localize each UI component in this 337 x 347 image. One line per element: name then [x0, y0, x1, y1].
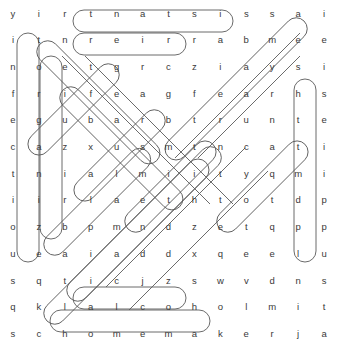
grid-cell[interactable]: i: [181, 160, 207, 187]
grid-cell[interactable]: e: [130, 187, 156, 214]
grid-cell[interactable]: e: [207, 214, 233, 241]
grid-cell[interactable]: s: [0, 320, 26, 347]
grid-cell[interactable]: k: [207, 320, 233, 347]
grid-cell[interactable]: z: [26, 214, 52, 241]
grid-cell[interactable]: t: [52, 267, 78, 294]
grid-cell[interactable]: e: [130, 320, 156, 347]
grid-cell[interactable]: a: [259, 133, 285, 160]
grid-cell[interactable]: q: [259, 160, 285, 187]
grid-cell[interactable]: i: [0, 187, 26, 214]
grid-cell[interactable]: c: [104, 267, 130, 294]
grid-cell[interactable]: f: [181, 80, 207, 107]
grid-cell[interactable]: c: [156, 53, 182, 80]
grid-cell[interactable]: j: [285, 320, 311, 347]
grid-cell[interactable]: t: [207, 187, 233, 214]
grid-cell[interactable]: s: [259, 0, 285, 27]
grid-cell[interactable]: b: [156, 107, 182, 134]
grid-cell[interactable]: t: [207, 160, 233, 187]
grid-cell[interactable]: j: [130, 267, 156, 294]
grid-cell[interactable]: c: [130, 294, 156, 321]
grid-cell[interactable]: k: [26, 294, 52, 321]
grid-cell[interactable]: x: [181, 240, 207, 267]
grid-cell[interactable]: u: [104, 133, 130, 160]
grid-cell[interactable]: r: [130, 107, 156, 134]
grid-cell[interactable]: t: [0, 160, 26, 187]
grid-cell[interactable]: i: [52, 80, 78, 107]
grid-cell[interactable]: a: [52, 240, 78, 267]
grid-cell[interactable]: i: [311, 133, 337, 160]
grid-cell[interactable]: e: [259, 240, 285, 267]
grid-cell[interactable]: i: [0, 27, 26, 54]
grid-cell[interactable]: r: [52, 0, 78, 27]
grid-cell[interactable]: s: [285, 53, 311, 80]
grid-cell[interactable]: t: [181, 133, 207, 160]
grid-cell[interactable]: l: [78, 187, 104, 214]
grid-cell[interactable]: t: [311, 294, 337, 321]
grid-cell[interactable]: n: [259, 107, 285, 134]
grid-cell[interactable]: q: [0, 294, 26, 321]
grid-cell[interactable]: i: [52, 160, 78, 187]
grid-cell[interactable]: a: [78, 294, 104, 321]
grid-cell[interactable]: r: [52, 187, 78, 214]
grid-cell[interactable]: e: [311, 27, 337, 54]
grid-cell[interactable]: b: [52, 214, 78, 241]
grid-cell[interactable]: o: [156, 294, 182, 321]
grid-cell[interactable]: i: [311, 53, 337, 80]
grid-cell[interactable]: d: [156, 214, 182, 241]
grid-cell[interactable]: y: [233, 160, 259, 187]
grid-cell[interactable]: l: [104, 294, 130, 321]
grid-cell[interactable]: s: [130, 133, 156, 160]
grid-cell[interactable]: m: [259, 294, 285, 321]
grid-cell[interactable]: u: [52, 107, 78, 134]
grid-cell[interactable]: r: [207, 107, 233, 134]
grid-cell[interactable]: u: [0, 240, 26, 267]
grid-cell[interactable]: t: [259, 187, 285, 214]
grid-cell[interactable]: a: [285, 0, 311, 27]
grid-cell[interactable]: y: [259, 53, 285, 80]
grid-cell[interactable]: r: [26, 80, 52, 107]
grid-cell[interactable]: e: [104, 80, 130, 107]
grid-cell[interactable]: i: [78, 240, 104, 267]
grid-cell[interactable]: r: [78, 27, 104, 54]
grid-cell[interactable]: y: [0, 0, 26, 27]
grid-cell[interactable]: z: [181, 214, 207, 241]
grid-cell[interactable]: t: [285, 133, 311, 160]
grid-cell[interactable]: n: [285, 267, 311, 294]
grid-cell[interactable]: r: [259, 80, 285, 107]
grid-cell[interactable]: n: [130, 214, 156, 241]
grid-cell[interactable]: q: [259, 214, 285, 241]
grid-cell[interactable]: n: [207, 133, 233, 160]
grid-cell[interactable]: t: [181, 107, 207, 134]
grid-cell[interactable]: a: [233, 53, 259, 80]
grid-cell[interactable]: t: [26, 27, 52, 54]
grid-cell[interactable]: c: [233, 133, 259, 160]
grid-cell[interactable]: o: [207, 294, 233, 321]
grid-cell[interactable]: i: [285, 294, 311, 321]
grid-cell[interactable]: i: [130, 27, 156, 54]
grid-cell[interactable]: a: [78, 160, 104, 187]
grid-cell[interactable]: m: [104, 320, 130, 347]
grid-cell[interactable]: x: [78, 133, 104, 160]
grid-cell[interactable]: r: [130, 53, 156, 80]
grid-cell[interactable]: z: [52, 133, 78, 160]
grid-cell[interactable]: i: [156, 160, 182, 187]
grid-cell[interactable]: h: [181, 294, 207, 321]
grid-cell[interactable]: o: [26, 53, 52, 80]
grid-cell[interactable]: d: [130, 240, 156, 267]
grid-cell[interactable]: e: [285, 27, 311, 54]
grid-cell[interactable]: m: [156, 133, 182, 160]
grid-cell[interactable]: n: [52, 27, 78, 54]
grid-cell[interactable]: u: [311, 240, 337, 267]
grid-cell[interactable]: t: [156, 187, 182, 214]
grid-cell[interactable]: z: [156, 267, 182, 294]
grid-cell[interactable]: a: [104, 240, 130, 267]
grid-cell[interactable]: o: [0, 214, 26, 241]
grid-cell[interactable]: l: [285, 240, 311, 267]
grid-cell[interactable]: h: [285, 80, 311, 107]
grid-cell[interactable]: e: [52, 53, 78, 80]
grid-cell[interactable]: m: [104, 214, 130, 241]
grid-cell[interactable]: a: [104, 187, 130, 214]
grid-cell[interactable]: e: [104, 27, 130, 54]
grid-cell[interactable]: f: [78, 80, 104, 107]
grid-cell[interactable]: m: [156, 320, 182, 347]
